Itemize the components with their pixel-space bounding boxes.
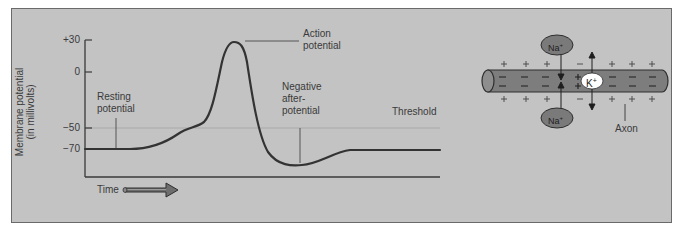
time-arrow-icon [123, 183, 178, 197]
sodium-charge: + [560, 115, 564, 121]
resting-label-line1: Resting [97, 91, 135, 103]
potassium-charge: + [593, 77, 597, 84]
y-tick-label: +30 [48, 35, 80, 45]
action-label-line2: potential [303, 40, 341, 52]
sodium-charge: + [560, 42, 564, 48]
sodium-top-label: Na+ [548, 39, 563, 54]
action-potential-label: Action potential [303, 28, 341, 52]
y-axis-label-line2: (in millivolts) [25, 52, 36, 172]
axon-label: Axon [615, 123, 638, 135]
sodium-symbol: Na [548, 43, 560, 53]
y-axis-label: Membrane potential (in millivolts) [14, 52, 36, 172]
sodium-bottom-label: Na+ [548, 112, 563, 127]
negative-label-line2: after- [282, 93, 321, 105]
potassium-label: K+ [586, 75, 597, 90]
threshold-label: Threshold [392, 106, 436, 118]
y-axis-label-line1: Membrane potential [14, 52, 25, 172]
outside-charges-bottom [501, 96, 655, 102]
sodium-symbol: Na [548, 116, 560, 126]
resting-label-line2: potential [97, 103, 135, 115]
potassium-symbol: K [586, 78, 593, 89]
negative-afterpotential-label: Negative after- potential [282, 81, 321, 117]
y-tick-label: −50 [48, 123, 80, 133]
axon-end-cap [482, 70, 494, 92]
x-axis-label: Time [97, 184, 119, 196]
negative-label-line3: potential [282, 105, 321, 117]
resting-potential-label: Resting potential [97, 91, 135, 115]
membrane-potential-curve [85, 42, 440, 165]
negative-label-line1: Negative [282, 81, 321, 93]
axon-diagram [482, 35, 668, 128]
outside-charges-top [501, 61, 655, 67]
action-label-line1: Action [303, 28, 341, 40]
y-tick-label: 0 [48, 67, 80, 77]
y-tick-label: −70 [48, 144, 80, 154]
